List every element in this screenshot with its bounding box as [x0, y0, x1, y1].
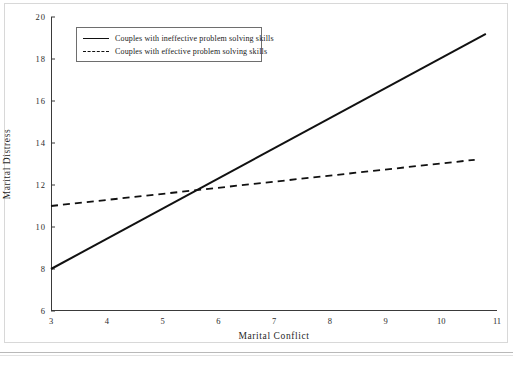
chart-legend: Couples with ineffective problem solving…: [76, 27, 262, 62]
y-tick-label: 10: [36, 222, 47, 232]
legend-label-ineffective: Couples with ineffective problem solving…: [115, 34, 274, 43]
y-tick-label: 6: [41, 306, 46, 316]
x-tick-label: 5: [160, 316, 164, 326]
series-line-ineffective: [51, 34, 486, 269]
y-tick-label: 20: [36, 12, 47, 22]
legend-swatch-dashed-line-icon: [83, 48, 109, 56]
y-tick-label: 8: [41, 264, 46, 274]
footer-caption: [10, 358, 490, 367]
y-tick-label: 12: [36, 180, 47, 190]
y-tick-label: 18: [36, 54, 47, 64]
y-axis-title: Marital Distress: [2, 129, 12, 200]
x-tick-label: 10: [437, 316, 446, 326]
y-tick-label: 16: [36, 96, 47, 106]
footer-divider-primary: [0, 352, 513, 353]
footer-divider-secondary: [0, 355, 513, 356]
legend-swatch-solid-line-icon: [83, 35, 109, 43]
x-tick-label: 6: [216, 316, 220, 326]
legend-item-effective: Couples with effective problem solving s…: [83, 45, 255, 58]
x-axis-title: Marital Conflict: [51, 331, 497, 341]
x-tick-label: 8: [328, 316, 332, 326]
x-tick-label: 7: [272, 316, 276, 326]
legend-item-ineffective: Couples with ineffective problem solving…: [83, 32, 255, 45]
legend-label-effective: Couples with effective problem solving s…: [115, 47, 267, 56]
x-tick-label: 9: [383, 316, 387, 326]
series-line-effective: [51, 160, 475, 206]
figure-canvas: 68101214161820 34567891011 Marital Confl…: [0, 0, 513, 368]
x-tick-label: 11: [493, 316, 501, 326]
y-tick-label: 14: [36, 138, 47, 148]
x-tick-label: 4: [105, 316, 109, 326]
x-tick-label: 3: [49, 316, 53, 326]
